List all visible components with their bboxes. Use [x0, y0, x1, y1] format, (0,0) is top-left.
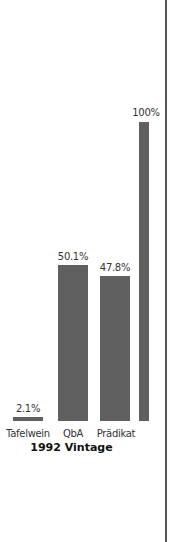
bar-qba: [58, 265, 88, 421]
value-label-tafelwein: 2.1%: [6, 403, 50, 414]
bar-tafelwein: [13, 417, 43, 421]
category-label-tafelwein: Tafelwein: [0, 428, 56, 439]
chart-title: 1992 Vintage: [0, 441, 143, 454]
value-label-qba: 50.1%: [51, 251, 95, 262]
value-label-total: 100%: [124, 107, 168, 118]
bar-praedikat: [100, 276, 130, 421]
bar-total: [139, 122, 149, 421]
category-label-praedikat: Prädikat: [93, 428, 139, 439]
category-label-qba: QbA: [58, 428, 88, 439]
value-label-praedikat: 47.8%: [93, 262, 137, 273]
divider-line: [165, 0, 167, 542]
